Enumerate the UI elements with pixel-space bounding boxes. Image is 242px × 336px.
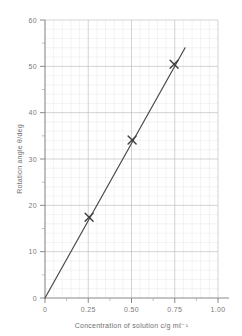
- y-tick-label-30: 30: [29, 156, 37, 163]
- x-tick-label-1-00: 1.00: [211, 306, 226, 313]
- y-tick-label-20: 20: [29, 202, 37, 209]
- x-axis-title: Concentration of solution c/g mℓ⁻¹: [75, 322, 189, 330]
- y-tick-label-10: 10: [29, 248, 37, 255]
- y-tick-label-0: 0: [33, 295, 37, 302]
- x-tick-label-0-25: 0.25: [81, 306, 96, 313]
- y-tick-label-40: 40: [29, 109, 37, 116]
- x-tick-label-0-75: 0.75: [167, 306, 182, 313]
- y-tick-label-60: 60: [29, 17, 37, 24]
- y-axis-title: Rotation angle θ/deg: [16, 124, 24, 194]
- chart-figure: 0 10 20 30 40 50 60 0 0.25 0.50 0.75 1.0…: [0, 0, 242, 336]
- x-tick-label-0-50: 0.50: [124, 306, 139, 313]
- rotation-angle-vs-concentration-chart: 0 10 20 30 40 50 60 0 0.25 0.50 0.75 1.0…: [0, 0, 242, 336]
- y-tick-label-50: 50: [29, 63, 37, 70]
- x-tick-label-0: 0: [43, 306, 47, 313]
